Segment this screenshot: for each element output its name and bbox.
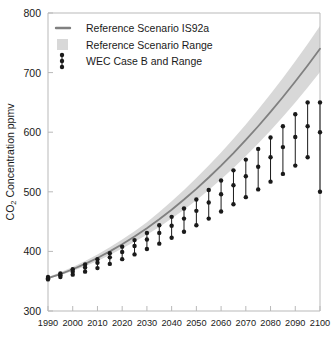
svg-text:2080: 2080	[260, 318, 280, 328]
svg-text:2000: 2000	[63, 318, 83, 328]
chart-canvas: 300400500600700800 199020002010202020302…	[0, 0, 332, 353]
svg-text:2050: 2050	[186, 318, 206, 328]
svg-text:2030: 2030	[137, 318, 157, 328]
svg-text:CO2 Concentration ppmv: CO2 Concentration ppmv	[4, 103, 18, 221]
x-axis-ticks	[48, 306, 320, 311]
svg-text:500: 500	[23, 186, 41, 198]
svg-text:2090: 2090	[285, 318, 305, 328]
svg-text:2010: 2010	[87, 318, 107, 328]
chart-legend: Reference Scenario IS92aReference Scenar…	[56, 22, 213, 69]
svg-text:800: 800	[23, 7, 41, 19]
y-axis-title: CO2 Concentration ppmv	[4, 103, 18, 221]
x-axis-tick-labels: 1990200020102020203020402050206020702080…	[38, 318, 330, 328]
svg-text:2070: 2070	[236, 318, 256, 328]
svg-text:WEC Case B and Range: WEC Case B and Range	[86, 55, 202, 67]
svg-text:2020: 2020	[112, 318, 132, 328]
svg-text:700: 700	[23, 67, 41, 79]
co2-concentration-chart: 300400500600700800 199020002010202020302…	[0, 0, 332, 353]
svg-text:600: 600	[23, 126, 41, 138]
svg-text:1990: 1990	[38, 318, 58, 328]
svg-text:2040: 2040	[161, 318, 181, 328]
svg-text:2060: 2060	[211, 318, 231, 328]
svg-text:Reference Scenario IS92a: Reference Scenario IS92a	[86, 22, 209, 34]
svg-text:2100: 2100	[310, 318, 330, 328]
svg-text:400: 400	[23, 245, 41, 257]
svg-text:300: 300	[23, 305, 41, 317]
y-axis-ticks	[48, 13, 53, 311]
y-axis-tick-labels: 300400500600700800	[23, 7, 41, 317]
svg-text:Reference Scenario Range: Reference Scenario Range	[86, 39, 213, 51]
